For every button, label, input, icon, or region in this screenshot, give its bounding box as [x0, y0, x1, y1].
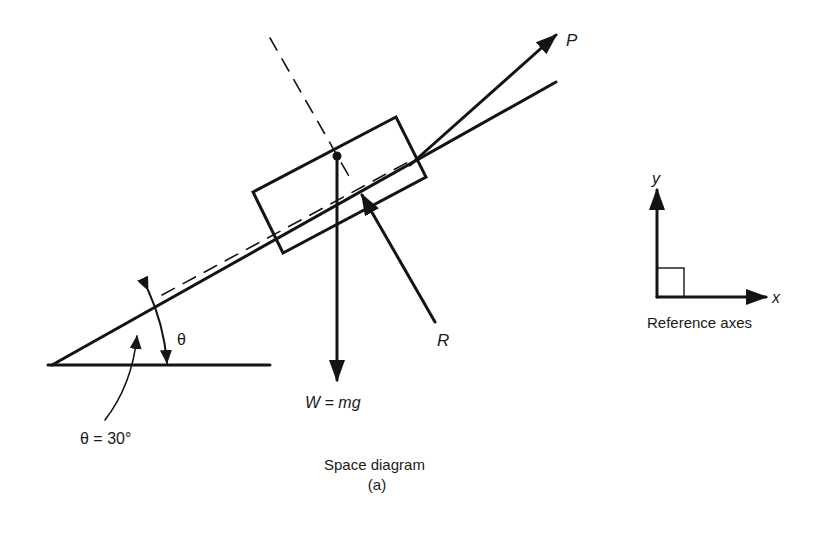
angle-leader-arrow: [105, 336, 137, 420]
caption-title: Space diagram: [324, 456, 425, 473]
caption-sub: (a): [368, 476, 386, 493]
force-p-arrow: [410, 35, 556, 165]
x-axis-label: x: [771, 289, 781, 306]
angle-value-label: θ = 30°: [80, 430, 131, 447]
right-angle-marker: [657, 268, 684, 297]
force-reaction-label: R: [437, 331, 449, 350]
reference-axes-title: Reference axes: [647, 314, 752, 331]
reference-axes: y x Reference axes: [647, 170, 781, 331]
y-axis-label: y: [651, 170, 661, 187]
space-diagram: P W = mg R θ θ = 30° y x Reference axes …: [0, 0, 831, 533]
force-p-label: P: [566, 31, 578, 50]
force-reaction-arrow: [362, 195, 435, 322]
slope-centreline-dashed: [162, 160, 412, 295]
incline-surface: [52, 82, 556, 365]
angle-symbol-label: θ: [177, 331, 186, 348]
force-weight-label: W = mg: [305, 394, 361, 411]
